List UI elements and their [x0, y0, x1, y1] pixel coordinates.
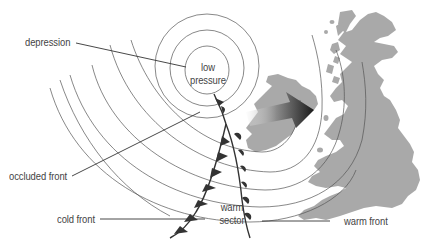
low-pressure-label-line2: pressure — [186, 74, 230, 86]
occluded-front — [214, 94, 226, 124]
low-pressure-label-line1: low — [196, 61, 221, 73]
isobars — [50, 14, 366, 222]
isobar-9 — [60, 80, 170, 216]
depression-diagram: depression low pressure occluded front c… — [0, 0, 422, 246]
great-britain-landmass — [298, 10, 420, 220]
depression-leader — [76, 43, 186, 67]
isle-of-man — [324, 115, 329, 121]
cold-front-label: cold front — [57, 213, 95, 225]
warm-sector-label-line2: sector — [216, 214, 247, 226]
depression-label: depression — [25, 36, 70, 48]
warm-front-label: warm front — [344, 215, 388, 227]
occluded-front-label: occluded front — [9, 170, 67, 182]
warm-sector-label-line1: warm — [218, 201, 246, 213]
